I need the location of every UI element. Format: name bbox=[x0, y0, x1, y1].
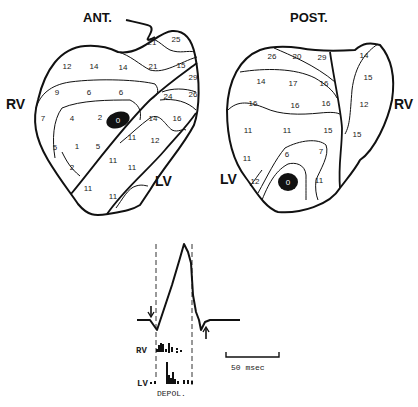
isochrone-value: 11 bbox=[244, 126, 253, 135]
isochrone-value: 14 bbox=[257, 77, 266, 86]
isochrone-value: 26 bbox=[268, 52, 277, 61]
isochrone-value: 14 bbox=[90, 62, 99, 71]
isochrone-value: 2 bbox=[70, 163, 75, 172]
isochrone-value: 15 bbox=[353, 130, 362, 139]
isochrone-value: 15 bbox=[324, 126, 333, 135]
earliest-activation-value: 0 bbox=[286, 178, 291, 187]
isochrone-value: 29 bbox=[318, 53, 327, 62]
lv-histogram-label: LV bbox=[137, 379, 148, 389]
anterior-map: ANT. 0 RV LV 212512141421152926249667421… bbox=[6, 10, 199, 215]
isochrone-value: 5 bbox=[53, 143, 58, 152]
isochrone-value: 15 bbox=[177, 61, 186, 70]
isochrone-value: 29 bbox=[189, 73, 198, 82]
isochrone-value: 21 bbox=[149, 62, 158, 71]
isochrone-value: 11 bbox=[243, 154, 252, 163]
isochrone-value: 11 bbox=[283, 126, 292, 135]
isochrone-value: 7 bbox=[41, 114, 46, 123]
vessel-line bbox=[126, 20, 155, 40]
ecg-trace-panel: RV LV DEPOL. 50 msec bbox=[136, 244, 279, 398]
isochrone-value: 4 bbox=[70, 114, 75, 123]
isochrone-value: 14 bbox=[360, 51, 369, 60]
isochrone-value: 12 bbox=[251, 177, 260, 186]
posterior-map: POST. 0 RV LV 26202914141716151616161211… bbox=[220, 10, 414, 212]
isochrone-value: 25 bbox=[172, 35, 181, 44]
isochrone-value: 16 bbox=[249, 99, 258, 108]
isochrone-value: 20 bbox=[293, 52, 302, 61]
activation-map-figure: ANT. 0 RV LV 212512141421152926249667421… bbox=[0, 0, 418, 407]
isochrone-value: 26 bbox=[189, 90, 198, 99]
anterior-lv-label: LV bbox=[155, 173, 173, 189]
isochrone-value: 14 bbox=[149, 114, 158, 123]
scale-bar-label: 50 msec bbox=[231, 363, 265, 372]
rv-histogram-label: RV bbox=[136, 346, 147, 356]
isochrone-value: 11 bbox=[315, 176, 324, 185]
isochrone-value: 14 bbox=[119, 63, 128, 72]
isochrone-value: 11 bbox=[109, 192, 118, 201]
isochrone-value: 16 bbox=[291, 101, 300, 110]
scale-bar bbox=[226, 352, 279, 357]
anterior-title: ANT. bbox=[83, 10, 112, 25]
isochrone-value: 15 bbox=[364, 73, 373, 82]
isochrone-value: 11 bbox=[128, 163, 137, 172]
isochrone-value: 12 bbox=[360, 100, 369, 109]
isochrone-value: 24 bbox=[164, 92, 173, 101]
isochrone-value: 2 bbox=[98, 113, 103, 122]
septal-boundary-1 bbox=[71, 63, 197, 194]
isochrone-value: 16 bbox=[322, 99, 331, 108]
isochrone bbox=[160, 99, 196, 110]
posterior-rv-label: RV bbox=[394, 96, 414, 112]
isochrone-value: 21 bbox=[148, 38, 157, 47]
isochrone-value: 9 bbox=[55, 88, 60, 97]
posterior-isochrone-values: 2620291414171615161616121111151567111211 bbox=[243, 51, 373, 186]
isochrone-value: 11 bbox=[109, 156, 118, 165]
isochrone-value: 16 bbox=[173, 114, 182, 123]
anterior-rv-label: RV bbox=[6, 96, 26, 112]
isochrone-value: 1 bbox=[75, 142, 80, 151]
isochrone-value: 17 bbox=[289, 79, 298, 88]
rv-lv-boundary bbox=[330, 52, 342, 188]
isochrone-value: 6 bbox=[119, 88, 124, 97]
posterior-lv-label: LV bbox=[220, 171, 238, 187]
isochrone-value: 7 bbox=[319, 147, 324, 156]
isochrone-value: 6 bbox=[87, 88, 92, 97]
isochrone-value: 6 bbox=[285, 150, 290, 159]
isochrone bbox=[258, 141, 327, 200]
isochrone-value: 5 bbox=[96, 142, 101, 151]
qrs-waveform bbox=[137, 244, 240, 330]
posterior-title: POST. bbox=[290, 10, 328, 25]
isochrone-value: 12 bbox=[63, 62, 72, 71]
rv-histogram bbox=[156, 343, 182, 353]
isochrone-value: 11 bbox=[84, 184, 93, 193]
depol-label: DEPOL. bbox=[157, 389, 186, 398]
isochrone-value: 16 bbox=[320, 79, 329, 88]
isochrone-value: 11 bbox=[128, 133, 137, 142]
isochrone-value: 12 bbox=[151, 136, 160, 145]
septal-boundary-2 bbox=[107, 113, 196, 214]
earliest-activation-value: 0 bbox=[116, 116, 121, 125]
